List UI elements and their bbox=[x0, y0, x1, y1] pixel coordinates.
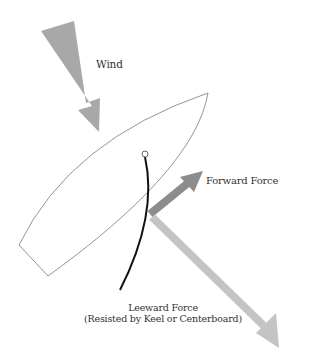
wind-label: Wind bbox=[96, 58, 123, 70]
mast-icon bbox=[142, 151, 148, 157]
forward-force-arrow bbox=[150, 171, 203, 214]
leeward-force-label: Leeward Force (Resisted by Keel or Cente… bbox=[58, 302, 268, 324]
wind-arrow bbox=[41, 21, 100, 132]
leeward-force-title: Leeward Force bbox=[58, 302, 268, 313]
leeward-force-arrow bbox=[152, 217, 279, 348]
sail-line bbox=[120, 157, 148, 290]
leeward-force-note: (Resisted by Keel or Centerboard) bbox=[58, 313, 268, 324]
forward-force-label: Forward Force bbox=[206, 175, 278, 186]
